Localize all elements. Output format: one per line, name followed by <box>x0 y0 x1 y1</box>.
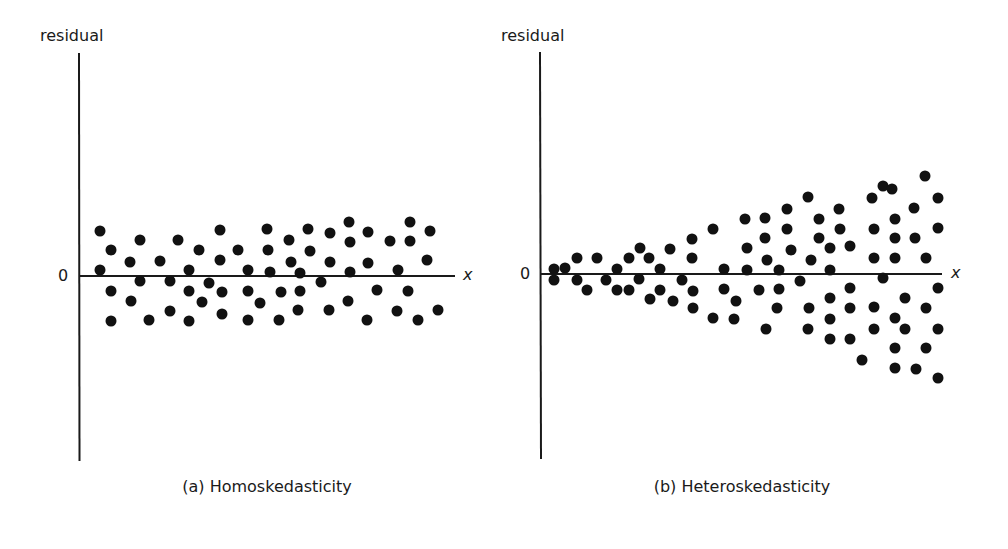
data-point <box>194 245 205 256</box>
data-point <box>217 287 228 298</box>
data-point <box>774 284 785 295</box>
data-point <box>155 256 166 267</box>
data-point <box>933 373 944 384</box>
data-point <box>165 306 176 317</box>
data-point <box>255 298 266 309</box>
data-point <box>835 224 846 235</box>
data-point <box>760 233 771 244</box>
data-point <box>592 253 603 264</box>
data-point <box>920 171 931 182</box>
data-point <box>761 324 772 335</box>
data-point <box>184 265 195 276</box>
plot-caption: (b) Heteroskedasticity <box>654 478 831 496</box>
data-point <box>325 228 336 239</box>
data-point <box>276 287 287 298</box>
data-point <box>165 276 176 287</box>
data-point <box>687 253 698 264</box>
data-point <box>345 237 356 248</box>
data-point <box>687 234 698 245</box>
data-point <box>803 192 814 203</box>
y-axis-label: residual <box>501 27 564 45</box>
data-point <box>243 286 254 297</box>
data-point <box>825 265 836 276</box>
data-point <box>243 315 254 326</box>
data-point <box>900 324 911 335</box>
y-axis-label: residual <box>40 27 103 45</box>
data-point <box>890 253 901 264</box>
data-point <box>845 283 856 294</box>
data-point <box>890 313 901 324</box>
data-point <box>760 213 771 224</box>
heteroskedasticity-plot: residual 0 x (b) Heteroskedasticity <box>500 0 1008 549</box>
data-points <box>549 171 944 384</box>
data-point <box>933 193 944 204</box>
data-point <box>295 268 306 279</box>
data-point <box>869 224 880 235</box>
data-point <box>284 235 295 246</box>
data-point <box>303 224 314 235</box>
data-point <box>549 275 560 286</box>
data-point <box>135 276 146 287</box>
data-point <box>572 253 583 264</box>
data-point <box>814 233 825 244</box>
data-point <box>405 236 416 247</box>
x-axis-label: x <box>951 264 960 282</box>
data-point <box>549 264 560 275</box>
data-point <box>887 184 898 195</box>
data-point <box>729 314 740 325</box>
data-point <box>921 303 932 314</box>
data-point <box>345 267 356 278</box>
data-point <box>845 241 856 252</box>
data-point <box>933 223 944 234</box>
data-point <box>624 253 635 264</box>
data-point <box>106 245 117 256</box>
data-point <box>316 277 327 288</box>
data-point <box>909 203 920 214</box>
data-point <box>665 244 676 255</box>
data-point <box>708 313 719 324</box>
data-point <box>344 217 355 228</box>
data-point <box>708 224 719 235</box>
data-point <box>719 264 730 275</box>
data-point <box>869 324 880 335</box>
data-point <box>933 324 944 335</box>
data-point <box>572 275 583 286</box>
data-point <box>560 263 571 274</box>
data-point <box>106 316 117 327</box>
data-point <box>243 265 254 276</box>
data-point <box>921 253 932 264</box>
data-point <box>293 305 304 316</box>
data-point <box>403 286 414 297</box>
data-point <box>95 226 106 237</box>
data-point <box>911 364 922 375</box>
data-point <box>612 264 623 275</box>
x-axis-label: x <box>463 266 472 284</box>
data-point <box>363 227 374 238</box>
data-point <box>806 255 817 266</box>
data-point <box>742 265 753 276</box>
data-point <box>890 363 901 374</box>
data-point <box>372 285 383 296</box>
data-point <box>215 225 226 236</box>
data-point <box>825 334 836 345</box>
data-point <box>393 265 404 276</box>
y-axis <box>540 52 541 459</box>
data-point <box>173 235 184 246</box>
data-point <box>385 236 396 247</box>
data-point <box>95 265 106 276</box>
data-point <box>782 204 793 215</box>
data-point <box>890 233 901 244</box>
zero-tick-label: 0 <box>520 265 530 283</box>
data-point <box>688 286 699 297</box>
data-point <box>677 275 688 286</box>
data-point <box>867 193 878 204</box>
data-point <box>305 246 316 257</box>
data-point <box>425 226 436 237</box>
data-point <box>215 255 226 266</box>
data-point <box>413 315 424 326</box>
plot-a-canvas <box>0 0 500 549</box>
data-point <box>263 245 274 256</box>
data-point <box>825 314 836 325</box>
data-point <box>197 297 208 308</box>
data-point <box>135 235 146 246</box>
